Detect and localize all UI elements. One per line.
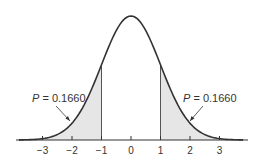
x-tick-label: 3 (217, 145, 223, 156)
x-tick-label: 0 (128, 145, 134, 156)
x-tick-label: −2 (66, 145, 78, 156)
x-tick-label: 2 (187, 145, 193, 156)
right-probability-label: P = 0.1660 (183, 92, 237, 104)
x-tick-label: −3 (37, 145, 49, 156)
density-curve (19, 16, 243, 140)
x-tick-label: −1 (96, 145, 108, 156)
left-probability-label: P = 0.1660 (32, 92, 86, 104)
x-tick-label: 1 (158, 145, 164, 156)
normal-distribution-chart: −3−2−10123 P = 0.1660 P = 0.1660 (0, 0, 253, 168)
